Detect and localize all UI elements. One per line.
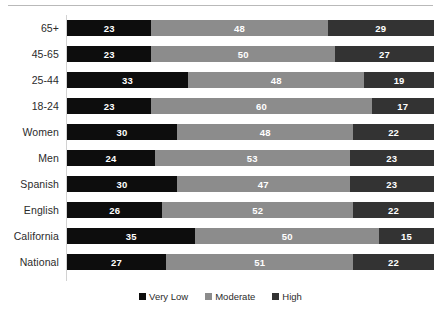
bar-segment-very-low: 24 (67, 150, 155, 166)
stacked-bar: 245323 (67, 150, 434, 166)
bar-segment-very-low: 35 (67, 228, 195, 244)
legend-label: Very Low (149, 291, 188, 302)
category-label: 65+ (0, 15, 59, 41)
legend-item[interactable]: High (272, 291, 302, 302)
bar-segment-moderate: 48 (188, 72, 364, 88)
stacked-bar: 275122 (67, 254, 434, 270)
bar-row: National275122 (0, 249, 441, 275)
legend-swatch-icon (272, 293, 279, 300)
stacked-bar: 235027 (67, 46, 434, 62)
bar-segment-high: 23 (350, 150, 434, 166)
category-label: Men (0, 145, 59, 171)
bar-row: 18-24236017 (0, 93, 441, 119)
stacked-bar: 236017 (67, 98, 434, 114)
legend-swatch-icon (205, 293, 212, 300)
legend-item[interactable]: Very Low (139, 291, 188, 302)
stacked-bar: 304723 (67, 176, 434, 192)
bar-segment-moderate: 53 (155, 150, 350, 166)
category-label: 45-65 (0, 41, 59, 67)
bar-row: Men245323 (0, 145, 441, 171)
bar-segment-moderate: 60 (151, 98, 371, 114)
legend-label: High (282, 291, 302, 302)
bar-segment-very-low: 30 (67, 124, 177, 140)
category-label: California (0, 223, 59, 249)
legend-item[interactable]: Moderate (205, 291, 255, 302)
chart-legend: Very LowModerateHigh (0, 288, 441, 304)
category-label: English (0, 197, 59, 223)
bar-segment-very-low: 33 (67, 72, 188, 88)
bar-segment-high: 27 (335, 46, 434, 62)
stacked-bar: 265222 (67, 202, 434, 218)
bar-row: 25-44334819 (0, 67, 441, 93)
category-label: Spanish (0, 171, 59, 197)
legend-label: Moderate (215, 291, 255, 302)
bar-segment-moderate: 47 (177, 176, 349, 192)
stacked-bar: 304822 (67, 124, 434, 140)
bar-row: Women304822 (0, 119, 441, 145)
category-label: Women (0, 119, 59, 145)
bar-row: California355015 (0, 223, 441, 249)
stacked-bar: 355015 (67, 228, 434, 244)
stacked-bar: 234829 (67, 20, 434, 36)
bar-row: 45-65235027 (0, 41, 441, 67)
category-label: 18-24 (0, 93, 59, 119)
bar-segment-moderate: 52 (162, 202, 353, 218)
bar-segment-very-low: 30 (67, 176, 177, 192)
bar-segment-high: 29 (328, 20, 434, 36)
stacked-bar: 334819 (67, 72, 434, 88)
bar-segment-high: 19 (364, 72, 434, 88)
bar-segment-moderate: 50 (151, 46, 335, 62)
bar-rows: 65+23482945-6523502725-4433481918-242360… (0, 15, 441, 281)
bar-segment-very-low: 23 (67, 46, 151, 62)
top-divider-rule (8, 5, 433, 6)
bar-row: 65+234829 (0, 15, 441, 41)
bar-segment-moderate: 51 (166, 254, 353, 270)
bar-row: Spanish304723 (0, 171, 441, 197)
bar-segment-high: 23 (350, 176, 434, 192)
plot-area: 65+23482945-6523502725-4433481918-242360… (0, 15, 441, 283)
bar-segment-high: 15 (379, 228, 434, 244)
bar-segment-very-low: 27 (67, 254, 166, 270)
bar-segment-high: 17 (372, 98, 434, 114)
bar-segment-moderate: 50 (195, 228, 379, 244)
bar-row: English265222 (0, 197, 441, 223)
faint-footer-text (6, 325, 206, 334)
legend-swatch-icon (139, 293, 146, 300)
bar-segment-moderate: 48 (151, 20, 327, 36)
bar-segment-high: 22 (353, 202, 434, 218)
bar-segment-very-low: 26 (67, 202, 162, 218)
category-label: National (0, 249, 59, 275)
stacked-bar-chart: 65+23482945-6523502725-4433481918-242360… (0, 0, 441, 336)
bar-segment-very-low: 23 (67, 98, 151, 114)
bar-segment-very-low: 23 (67, 20, 151, 36)
category-label: 25-44 (0, 67, 59, 93)
bar-segment-moderate: 48 (177, 124, 353, 140)
bar-segment-high: 22 (353, 124, 434, 140)
bar-segment-high: 22 (353, 254, 434, 270)
